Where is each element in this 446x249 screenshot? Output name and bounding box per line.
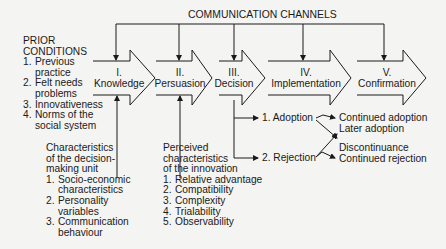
- stage-label-confirmation: V. Confirmation: [357, 68, 417, 89]
- unit-item-3: Communication: [58, 216, 129, 227]
- stage-name: Persuasion: [154, 79, 206, 90]
- prior-conditions: PRIOR CONDITIONS 1.Previous practice 2.F…: [23, 36, 103, 131]
- stage-label-persuasion: II. Persuasion: [154, 68, 206, 89]
- item-number: 5.: [163, 217, 175, 228]
- innovation-item-5: Observability: [175, 216, 234, 227]
- prior-item-3: Innovativeness: [35, 99, 103, 110]
- stage-numeral: II.: [154, 68, 206, 79]
- item-number: 4.: [23, 110, 35, 121]
- unit-item-2: Personality: [58, 195, 108, 206]
- discontinuance-label: Discontinuance: [339, 143, 409, 154]
- stage-name: Knowledge: [94, 79, 144, 90]
- item-number: 2.: [23, 78, 35, 89]
- continued-adoption-arrow: [316, 115, 335, 118]
- innovation-characteristics: Perceived characteristics of the innovat…: [163, 143, 262, 228]
- stage-name: Implementation: [271, 79, 341, 90]
- prior-item-4-cont: social system: [23, 121, 103, 132]
- stage-numeral: III.: [214, 68, 254, 79]
- item-number: 1.: [46, 175, 58, 186]
- prior-item-1: Previous: [35, 56, 75, 67]
- innovation-item-1: Relative advantage: [175, 174, 262, 185]
- discontinuance-arrow: [316, 120, 337, 138]
- innovation-item-4: Trialability: [175, 206, 220, 217]
- stage-name: Decision: [214, 79, 254, 90]
- item-number: 3.: [163, 196, 175, 207]
- stage-numeral: I.: [94, 68, 144, 79]
- prior-item-4: Norms of the: [35, 109, 93, 120]
- stage-label-knowledge: I. Knowledge: [94, 68, 144, 89]
- rejection-label: 2. Rejection: [262, 153, 316, 164]
- unit-heading-1: Characteristics: [46, 143, 130, 154]
- item-number: 1.: [23, 57, 35, 68]
- unit-item-3-cont: behaviour: [46, 228, 130, 239]
- continued-rejection-label: Continued rejection: [339, 154, 427, 165]
- decision-unit-characteristics: Characteristics of the decision- making …: [46, 143, 130, 238]
- channels-title: COMMUNICATION CHANNELS: [188, 10, 337, 21]
- continued-rejection-arrow: [316, 152, 335, 158]
- stage-numeral: V.: [357, 68, 417, 79]
- stage-numeral: IV.: [271, 68, 341, 79]
- innovation-heading-1: Perceived: [163, 143, 262, 154]
- item-number: 3.: [46, 217, 58, 228]
- adoption-label: 1. Adoption: [262, 113, 313, 124]
- prior-heading-1: PRIOR: [23, 36, 103, 47]
- innovation-item-2: Compatibility: [175, 184, 233, 195]
- innovation-item-3: Complexity: [175, 195, 225, 206]
- stage-label-implementation: IV. Implementation: [271, 68, 341, 89]
- prior-item-2: Felt needs: [35, 77, 83, 88]
- item-number: 2.: [46, 196, 58, 207]
- continued-adoption-label: Continued adoption: [339, 113, 427, 124]
- later-adoption-label: Later adoption: [339, 124, 404, 135]
- stage-name: Confirmation: [357, 79, 417, 90]
- stage-label-decision: III. Decision: [214, 68, 254, 89]
- unit-item-1: Socio-economic: [58, 174, 130, 185]
